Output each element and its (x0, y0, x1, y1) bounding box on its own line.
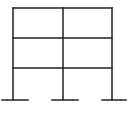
structural-frame-diagram (0, 0, 133, 113)
columns (13, 8, 112, 100)
